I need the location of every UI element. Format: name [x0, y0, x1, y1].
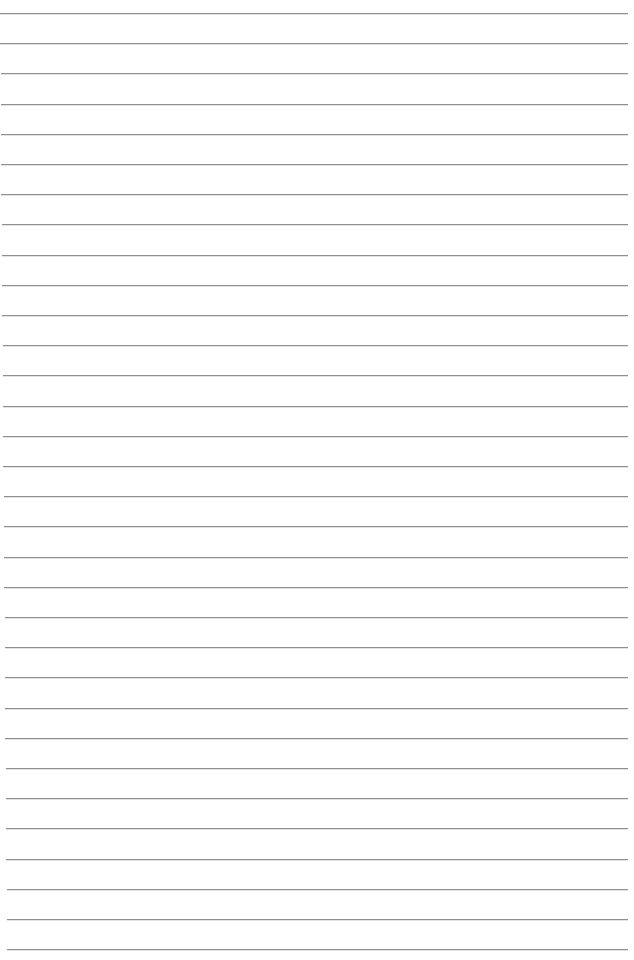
ruled-line [6, 768, 628, 769]
ruled-line [3, 375, 628, 376]
ruled-line [3, 345, 629, 346]
ruled-line [5, 647, 628, 648]
ruled-line [0, 13, 628, 14]
ruled-line [5, 677, 628, 678]
ruled-line [6, 828, 628, 829]
ruled-line [3, 406, 628, 407]
ruled-line [2, 315, 628, 316]
ruled-line [4, 587, 628, 588]
ruled-line [0, 43, 628, 44]
ruled-line [6, 859, 628, 860]
ruled-line [4, 557, 628, 558]
ruled-line [2, 224, 628, 225]
ruled-line [3, 466, 628, 467]
ruled-line [1, 134, 628, 135]
ruled-line [6, 798, 628, 799]
ruled-line [4, 526, 628, 527]
ruled-line [2, 255, 628, 256]
ruled-line [7, 889, 629, 890]
ruled-line [5, 738, 628, 739]
ruled-line [7, 919, 628, 920]
ruled-line [1, 104, 628, 105]
ruled-line [7, 949, 628, 950]
ruled-line [5, 708, 628, 709]
ruled-line [1, 164, 628, 165]
ruled-line [2, 285, 628, 286]
ruled-line [1, 194, 628, 195]
lined-paper-page [0, 0, 634, 960]
ruled-line [4, 496, 628, 497]
ruled-line [3, 436, 628, 437]
ruled-line [5, 617, 629, 618]
ruled-line [1, 73, 629, 74]
